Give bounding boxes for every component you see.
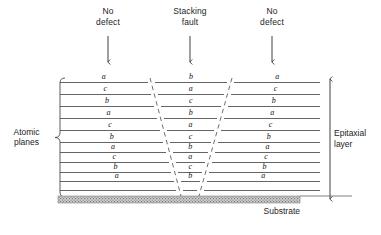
plane-letter: b (105, 97, 109, 105)
substrate-band (58, 196, 300, 203)
header-arrows (108, 36, 272, 62)
plane-letter: a (189, 85, 193, 93)
plane-letter: c (188, 163, 192, 171)
plane-letter: a (111, 143, 115, 151)
plane-letter: b (114, 163, 118, 171)
plane-letter: b (188, 172, 192, 180)
plane-letter: a (275, 73, 279, 81)
plane-letter: c (108, 121, 112, 129)
plane-letter: b (188, 143, 192, 151)
diagram-graphics (0, 0, 381, 235)
plane-letter: a (102, 73, 106, 81)
plane-letter: b (267, 133, 271, 141)
plane-letter: b (189, 73, 193, 81)
plane-letter: a (189, 121, 193, 129)
plane-letter: a (107, 109, 111, 117)
plane-letter: b (263, 163, 267, 171)
plane-letter: c (269, 121, 273, 129)
plane-letter: c (104, 85, 108, 93)
plane-letter: a (188, 153, 192, 161)
plane-letter: b (272, 97, 276, 105)
atomic-planes-brace (55, 78, 65, 197)
plane-letter: c (264, 153, 268, 161)
plane-letter: b (189, 109, 193, 117)
plane-letter: a (115, 172, 119, 180)
plane-letter: c (274, 85, 278, 93)
plane-letter: a (270, 109, 274, 117)
plane-letter: b (110, 133, 114, 141)
diagram-canvas: No defect Stacking fault No defect Atomi… (0, 0, 381, 235)
plane-letter: c (113, 153, 117, 161)
plane-letter: a (261, 172, 265, 180)
plane-letter: c (189, 133, 193, 141)
plane-letter: c (189, 97, 193, 105)
plane-letter: a (265, 143, 269, 151)
